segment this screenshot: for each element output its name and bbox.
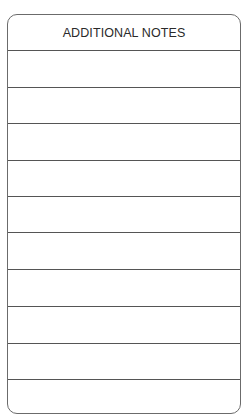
note-line-9[interactable]	[8, 343, 240, 344]
notes-title: ADDITIONAL NOTES	[8, 15, 240, 50]
note-line-10[interactable]	[8, 379, 240, 380]
note-line-1[interactable]	[8, 50, 240, 51]
note-line-2[interactable]	[8, 87, 240, 88]
note-line-5[interactable]	[8, 196, 240, 197]
note-line-8[interactable]	[8, 306, 240, 307]
notes-card: ADDITIONAL NOTES	[7, 14, 241, 414]
note-line-7[interactable]	[8, 269, 240, 270]
note-line-6[interactable]	[8, 232, 240, 233]
note-line-4[interactable]	[8, 160, 240, 161]
note-line-3[interactable]	[8, 123, 240, 124]
